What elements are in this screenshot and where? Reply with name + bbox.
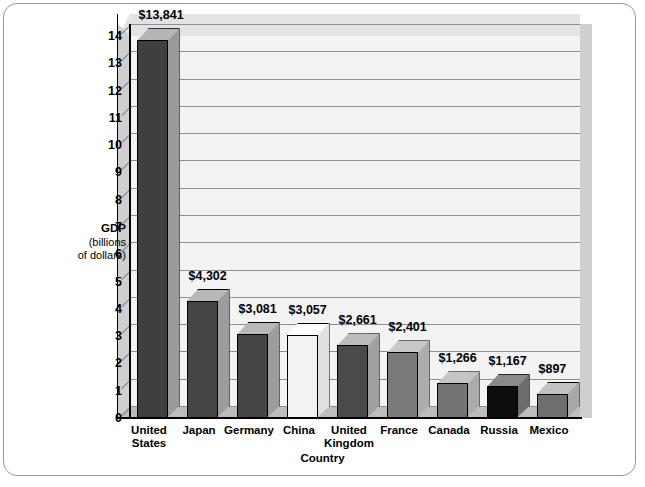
y-tick-9: 9 — [100, 166, 122, 178]
bar-side-face — [317, 323, 330, 418]
gdp-bar-chart: 01234567891011121314 GDP (billions of do… — [0, 0, 645, 487]
bar-russia — [487, 374, 518, 418]
bar-front-face — [487, 386, 518, 418]
x-tick-line: States — [132, 437, 167, 449]
y-tick-0: 0 — [100, 412, 122, 424]
bar-front-face — [287, 335, 318, 418]
x-tick-united-kingdom: UnitedKingdom — [324, 424, 374, 450]
y-tick-13: 13 — [100, 57, 122, 69]
x-tick-line: France — [380, 424, 418, 436]
x-tick-russia: Russia — [474, 424, 524, 437]
y-tick-14: 14 — [100, 30, 122, 42]
y-tick-8: 8 — [100, 194, 122, 206]
bar-germany — [237, 322, 268, 418]
bar-front-face — [387, 352, 418, 418]
value-label-mexico: $897 — [539, 363, 567, 376]
value-label-china: $3,057 — [289, 304, 327, 317]
bar-side-face — [217, 289, 230, 418]
gridline-7 — [130, 215, 580, 216]
plot-top-band — [118, 14, 580, 36]
bar-side-face — [267, 322, 280, 418]
y-tick-11: 11 — [100, 112, 122, 124]
value-label-japan: $4,302 — [189, 270, 227, 283]
plot-right-wall — [580, 24, 592, 418]
value-label-united-states: $13,841 — [139, 9, 184, 22]
bar-united-states — [137, 28, 168, 418]
gridline-6 — [130, 242, 580, 243]
gridline-12 — [130, 79, 580, 80]
x-tick-mexico: Mexico — [524, 424, 574, 437]
x-tick-line: Germany — [224, 424, 274, 436]
x-tick-line: United — [131, 424, 167, 436]
bar-side-face — [167, 28, 180, 418]
y-tick-1: 1 — [100, 385, 122, 397]
x-tick-japan: Japan — [174, 424, 224, 437]
bar-united-kingdom — [337, 333, 368, 418]
x-tick-line: United — [331, 424, 367, 436]
bar-front-face — [337, 345, 368, 418]
y-tick-10: 10 — [100, 139, 122, 151]
bar-canada — [437, 371, 468, 418]
value-label-canada: $1,266 — [439, 352, 477, 365]
x-tick-germany: Germany — [224, 424, 274, 437]
x-tick-line: Japan — [182, 424, 215, 436]
value-label-russia: $1,167 — [489, 355, 527, 368]
y-axis-title-sub-2: of dollars) — [78, 249, 126, 261]
y-tick-3: 3 — [100, 330, 122, 342]
bar-side-face — [367, 333, 380, 418]
gridline-10 — [130, 133, 580, 134]
y-axis-title-main: GDP — [101, 222, 126, 234]
bar-front-face — [537, 394, 568, 418]
x-axis-title: Country — [0, 452, 645, 464]
x-tick-line: China — [283, 424, 315, 436]
bar-front-face — [237, 334, 268, 418]
y-axis-line — [129, 24, 131, 419]
y-tick-4: 4 — [100, 303, 122, 315]
gridline-13 — [130, 51, 580, 52]
value-label-germany: $3,081 — [239, 303, 277, 316]
bar-france — [387, 340, 418, 418]
x-tick-united-states: UnitedStates — [124, 424, 174, 450]
x-tick-line: Kingdom — [324, 437, 374, 449]
bar-front-face — [187, 301, 218, 418]
x-tick-canada: Canada — [424, 424, 474, 437]
value-label-france: $2,401 — [389, 321, 427, 334]
bar-front-face — [137, 40, 168, 418]
y-tick-5: 5 — [100, 276, 122, 288]
x-tick-line: Russia — [480, 424, 518, 436]
gridline-14 — [130, 24, 580, 25]
gridline-8 — [130, 188, 580, 189]
bar-front-face — [437, 383, 468, 418]
x-tick-line: Canada — [428, 424, 470, 436]
y-axis-title-sub-1: (billions — [89, 236, 126, 248]
value-label-united-kingdom: $2,661 — [339, 314, 377, 327]
bar-china — [287, 323, 318, 418]
bar-japan — [187, 289, 218, 418]
x-tick-line: Mexico — [530, 424, 569, 436]
gridline-9 — [130, 160, 580, 161]
x-tick-france: France — [374, 424, 424, 437]
y-tick-2: 2 — [100, 357, 122, 369]
gridline-11 — [130, 106, 580, 107]
x-tick-china: China — [274, 424, 324, 437]
y-tick-12: 12 — [100, 85, 122, 97]
y-axis-title: GDP (billions of dollars) — [18, 222, 126, 263]
bar-mexico — [537, 382, 568, 418]
